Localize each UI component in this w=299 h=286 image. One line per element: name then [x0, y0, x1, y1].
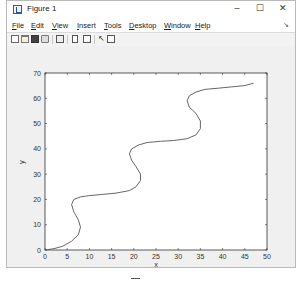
y-tick-label: 10	[33, 221, 41, 228]
y-tick-label: 50	[33, 120, 41, 127]
taskbar-item-icon[interactable]	[131, 278, 140, 282]
y-tick-label: 30	[33, 171, 41, 178]
y-tick-label: 70	[33, 70, 41, 77]
x-tick-label: 15	[108, 253, 116, 260]
x-tick-label: 25	[152, 253, 160, 260]
x-tick-label: 20	[130, 253, 138, 260]
x-tick-label: 0	[43, 253, 47, 260]
plot-area: 05101520253035404550 010203040506070 x y	[0, 0, 299, 286]
x-tick-label: 30	[174, 253, 182, 260]
axes-box[interactable]	[45, 73, 267, 250]
x-tick-labels: 05101520253035404550	[43, 253, 271, 260]
y-tick-labels: 010203040506070	[33, 70, 41, 254]
y-axis-label: y	[17, 160, 26, 164]
x-axis-label: x	[154, 260, 158, 269]
y-tick-label: 60	[33, 95, 41, 102]
y-tick-label: 20	[33, 196, 41, 203]
x-tick-label: 45	[241, 253, 249, 260]
x-tick-label: 40	[219, 253, 227, 260]
x-tick-label: 5	[65, 253, 69, 260]
x-tick-label: 50	[263, 253, 271, 260]
y-tick-label: 0	[37, 247, 41, 254]
x-tick-label: 10	[86, 253, 94, 260]
x-tick-label: 35	[197, 253, 205, 260]
y-tick-label: 40	[33, 145, 41, 152]
